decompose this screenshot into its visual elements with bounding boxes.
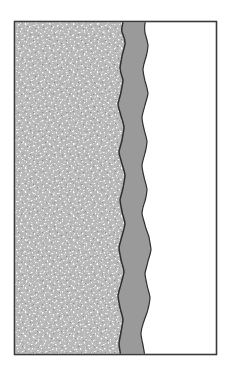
substrate-speckle-overlay <box>12 18 125 359</box>
figure-root <box>0 0 232 366</box>
cross-section-figure <box>0 0 232 366</box>
